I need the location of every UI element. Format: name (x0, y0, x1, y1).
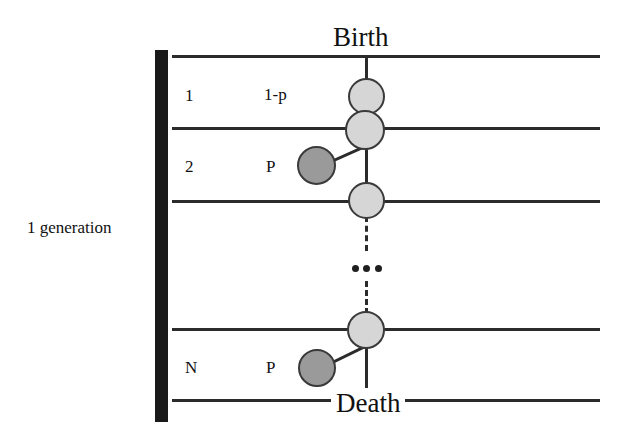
node-offspring-n (298, 349, 336, 387)
divider-line-3 (172, 328, 600, 331)
row-index-n: N (185, 358, 197, 378)
row-index-2: 2 (185, 157, 194, 177)
node-survivor-3 (348, 182, 385, 219)
node-survivor-2 (345, 110, 385, 150)
death-label: Death (331, 388, 405, 419)
row-probability-n: P (266, 358, 275, 378)
node-offspring-2 (297, 146, 336, 185)
ellipsis-dot-left (352, 265, 359, 272)
row-probability-2: P (266, 157, 275, 177)
spine-segment-bottom (365, 343, 368, 388)
divider-line-2 (172, 200, 600, 203)
divider-line-birth (172, 55, 600, 58)
row-probability-1: 1-p (264, 85, 287, 105)
node-survivor-n (347, 311, 385, 349)
ellipsis-dot-center (363, 265, 370, 272)
generation-span-bar (155, 50, 168, 422)
divider-line-1 (172, 127, 600, 130)
spine-dashed-lower (365, 281, 368, 314)
diagram-canvas: 1 generation Birth Death 1 1-p 2 P N P (0, 0, 626, 443)
ellipsis-dot-right (375, 265, 382, 272)
spine-dashed-upper (365, 216, 368, 251)
row-index-1: 1 (185, 86, 194, 106)
generation-span-label: 1 generation (27, 218, 112, 238)
birth-label: Birth (333, 22, 389, 53)
